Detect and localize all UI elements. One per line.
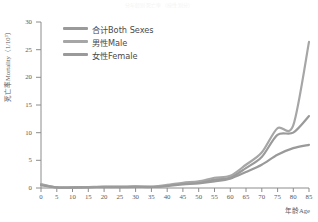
legend-item: 合计Both Sexes <box>63 22 154 35</box>
x-tick-label: 35 <box>144 193 158 200</box>
y-axis-ticks <box>36 22 41 188</box>
y-tick-label: 20 <box>18 73 32 80</box>
x-tick-label: 5 <box>50 193 64 200</box>
y-tick-label: 15 <box>18 101 32 108</box>
x-tick-label: 70 <box>255 193 269 200</box>
y-tick-label: 10 <box>18 129 32 136</box>
x-tick-label: 85 <box>302 193 316 200</box>
legend-line-icon <box>63 53 88 55</box>
legend-label: 男性Male <box>92 36 127 48</box>
data-series-group <box>41 42 309 188</box>
x-tick-label: 80 <box>286 193 300 200</box>
series-line-2 <box>41 42 309 188</box>
x-tick-label: 15 <box>81 193 95 200</box>
y-tick-label: 0 <box>18 184 32 191</box>
x-tick-label: 65 <box>239 193 253 200</box>
x-tick-label: 10 <box>66 193 80 200</box>
x-tick-label: 20 <box>97 193 111 200</box>
series-line-3 <box>41 145 309 188</box>
legend-item: 男性Male <box>63 35 154 48</box>
chart-legend: 合计Both Sexes男性Male女性Female <box>63 22 154 61</box>
legend-label: 合计Both Sexes <box>92 23 154 35</box>
x-tick-label: 40 <box>160 193 174 200</box>
y-tick-label: 5 <box>18 156 32 163</box>
x-tick-label: 75 <box>270 193 284 200</box>
x-axis-title: 年龄Age <box>285 205 310 215</box>
x-tick-label: 45 <box>176 193 190 200</box>
x-tick-label: 55 <box>207 193 221 200</box>
x-tick-label: 30 <box>129 193 143 200</box>
legend-line-icon <box>63 27 88 29</box>
y-tick-label: 25 <box>18 46 32 53</box>
x-tick-label: 25 <box>113 193 127 200</box>
legend-item: 女性Female <box>63 48 154 61</box>
mortality-by-age-chart: 分年龄别死亡率（按性别分） <box>0 0 318 222</box>
x-tick-label: 0 <box>34 193 48 200</box>
x-axis-ticks <box>41 188 309 192</box>
y-tick-label: 30 <box>18 18 32 25</box>
legend-line-icon <box>63 40 88 42</box>
series-line-1 <box>41 116 309 188</box>
x-tick-label: 60 <box>223 193 237 200</box>
x-tick-label: 50 <box>192 193 206 200</box>
plot-area <box>0 0 318 222</box>
y-axis-title: 死亡率Mortality（1/10³） <box>2 32 12 102</box>
legend-label: 女性Female <box>92 49 138 61</box>
